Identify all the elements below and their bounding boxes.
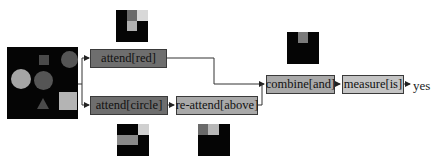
circle-object — [61, 51, 78, 68]
attention-map-reattend-above — [198, 124, 230, 156]
circle-object — [11, 69, 31, 89]
triangle-object — [37, 98, 49, 109]
module-combine-and: combine[and] — [266, 75, 335, 94]
circle-object — [34, 71, 53, 90]
input-scene-image — [7, 47, 78, 119]
square-object — [39, 55, 49, 65]
answer-output: yes — [413, 78, 430, 94]
module-attend-red: attend[red] — [90, 49, 167, 68]
module-attend-circle: attend[circle] — [90, 96, 168, 115]
attention-map-combine-and — [287, 32, 319, 64]
module-reattend-above: re-attend[above] — [176, 96, 258, 115]
attention-map-attend-circle — [117, 124, 149, 156]
square-object — [59, 92, 77, 110]
module-measure-is: measure[is] — [342, 75, 404, 94]
attention-map-attend-red — [116, 10, 148, 42]
